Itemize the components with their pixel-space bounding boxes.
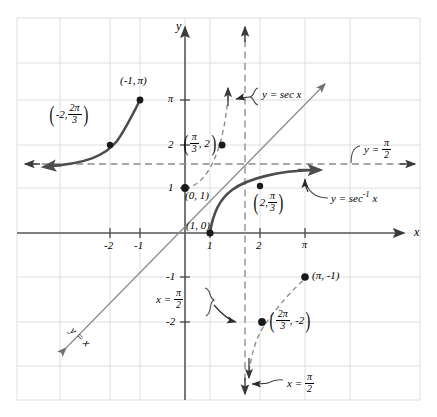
- x-asymptote-bottom-leader: [268, 380, 283, 383]
- fraction-num: 2π: [68, 103, 82, 114]
- fraction-pi-2: π 2: [305, 372, 314, 394]
- ytick-label-pi: π: [168, 94, 173, 104]
- fraction-den: 3: [268, 202, 277, 214]
- fraction-den: 3: [276, 320, 290, 332]
- sec-inverse-function-label: y = sec-1x: [331, 191, 377, 204]
- fraction-2pi-3: 2π 3: [276, 309, 290, 331]
- fraction-num: π: [190, 132, 199, 143]
- point-label-2-pi3-x: 2,: [260, 196, 268, 208]
- y-asymptote-label: y = π 2: [364, 139, 391, 161]
- sec-function-label: y = sec x: [262, 89, 301, 100]
- sec-label-arrow: [236, 97, 250, 99]
- fraction-num: π: [268, 191, 277, 202]
- math-graph-figure: x y -2 -1 1 2 π 1 2 π -1 -2 (-1,π) (-2, …: [0, 0, 437, 417]
- x-axis-label: x: [414, 226, 419, 238]
- sec-inverse-suffix: x: [373, 192, 378, 204]
- ytick-label-neg1: -1: [166, 271, 175, 282]
- xtick-label-1: 1: [207, 240, 213, 251]
- dot-pi-neg1: [301, 273, 309, 281]
- paren-open: (: [253, 192, 258, 214]
- point-label-neg1-pi-x: (-1,: [120, 74, 136, 86]
- ytick-label-1: 1: [168, 182, 174, 193]
- paren-open: (: [269, 310, 274, 332]
- point-label-2pi3-neg2: ( 2π 3 , -2): [268, 310, 312, 332]
- dot-2-pi3: [257, 183, 263, 189]
- x-asymptote-prefix-bottom: x =: [287, 377, 302, 389]
- fraction-pi-3: π 3: [190, 132, 199, 154]
- x-asymptote-label-bottom: x = π 2: [287, 373, 314, 395]
- paren-close: ): [211, 133, 216, 155]
- y-asymptote-prefix: y =: [364, 143, 379, 155]
- fraction-pi-2: π 2: [174, 288, 183, 310]
- dot-neg1-pi: [137, 97, 144, 104]
- xtick-label-pi: π: [302, 240, 307, 250]
- point-label-pi-neg1: (π, -1): [312, 270, 340, 281]
- fraction-pi-2: π 2: [382, 138, 391, 160]
- ytick-label-2: 2: [168, 139, 174, 150]
- paren-close: ): [278, 192, 283, 214]
- sec-inverse-prefix: y = sec: [331, 192, 363, 204]
- paren-open: (: [49, 104, 54, 126]
- graph-canvas: [0, 0, 437, 417]
- fraction-den: 3: [190, 143, 199, 155]
- paren-close: ): [83, 104, 88, 126]
- fraction-2pi-3: 2π 3: [68, 103, 82, 125]
- fraction-num: π: [305, 372, 314, 383]
- point-label-neg2-2pi3: (-2, 2π 3 ): [48, 104, 89, 126]
- xtick-label-2: 2: [256, 240, 262, 251]
- xtick-label-neg1: -1: [134, 240, 143, 251]
- fraction-num: 2π: [276, 309, 290, 320]
- dot-neg2-2pi3: [107, 142, 113, 148]
- dot-pi3-2: [219, 142, 226, 149]
- point-label-neg2-2pi3-x: -2,: [56, 108, 68, 120]
- x-asymptote-label: x = π 2: [156, 289, 183, 311]
- point-label-neg1-pi-y: π): [138, 74, 147, 86]
- x-asymptote-label-arrow: [214, 305, 236, 322]
- sec-inverse-left-arrow: [44, 165, 62, 167]
- sec-inverse-exponent: -1: [363, 190, 370, 199]
- ytick-label-neg2: -2: [166, 316, 175, 327]
- sec-label-leader: [250, 88, 258, 105]
- xtick-label-neg2: -2: [104, 240, 113, 251]
- fraction-den: 2: [382, 149, 391, 161]
- point-label-pi3-2-y: , 2: [199, 137, 210, 149]
- point-label-1-0: (1, 0): [186, 220, 210, 231]
- paren-open: (: [183, 133, 188, 155]
- fraction-den: 3: [68, 114, 82, 126]
- point-label-0-1: (0, 1): [185, 190, 209, 201]
- point-label-pi3-2: ( π 3 , 2): [182, 133, 217, 155]
- y-axis-label: y: [176, 20, 181, 32]
- fraction-pi-3: π 3: [268, 191, 277, 213]
- fraction-num: π: [382, 138, 391, 149]
- point-label-neg1-pi: (-1,π): [120, 75, 147, 86]
- x-asymptote-prefix: x =: [156, 293, 171, 305]
- fraction-den: 2: [305, 383, 314, 395]
- point-label-2pi3-neg2-y: , -2: [290, 314, 305, 326]
- paren-close: ): [306, 310, 311, 332]
- dot-2pi3-neg2: [258, 318, 266, 326]
- fraction-num: π: [174, 288, 183, 299]
- point-label-2-pi3: (2, π 3 ): [252, 192, 285, 214]
- fraction-den: 2: [174, 299, 183, 311]
- y-asymptote-label-leader: [351, 146, 360, 163]
